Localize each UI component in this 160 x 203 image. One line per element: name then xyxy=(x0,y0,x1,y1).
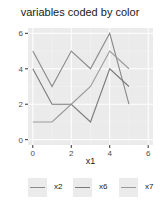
legend-label: x2 xyxy=(54,182,62,191)
y-tick-label: 6 xyxy=(19,29,24,38)
line-swatch-icon xyxy=(75,187,90,188)
legend-label: x6 xyxy=(99,182,107,191)
plot-area: 0246 0246 xyxy=(0,0,160,203)
y-tick-label: 4 xyxy=(19,65,24,74)
legend-key xyxy=(119,178,138,197)
legend-label: x7 xyxy=(145,182,153,191)
x-axis-label: x1 xyxy=(28,156,153,166)
y-axis: 0246 xyxy=(19,29,28,144)
line-swatch-icon xyxy=(121,187,136,188)
y-tick-label: 0 xyxy=(19,136,24,145)
legend-key xyxy=(73,178,92,197)
line-swatch-icon xyxy=(30,187,45,188)
y-tick-label: 2 xyxy=(19,100,24,109)
legend-key xyxy=(28,178,47,197)
legend: x2 x6 x7 xyxy=(24,178,160,198)
